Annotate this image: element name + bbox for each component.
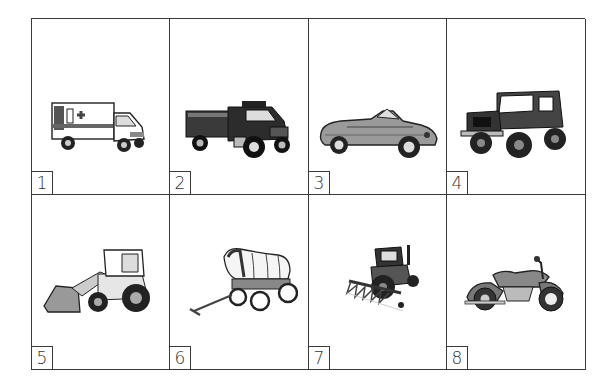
- convertible-car-icon: [317, 105, 441, 163]
- cell-number-label: 6: [169, 346, 191, 370]
- jeep-icon: [459, 83, 571, 159]
- tractor-icon: [343, 241, 427, 315]
- covered-wagon-icon: [188, 245, 298, 317]
- cell-number-label: 3: [308, 171, 330, 195]
- cell-number-label: 8: [446, 346, 468, 370]
- cell-number-label: 4: [446, 171, 468, 195]
- grid-cell-4: 4: [447, 19, 586, 195]
- cell-number-label: 7: [308, 346, 330, 370]
- vehicle-grid: 1 2: [31, 18, 585, 369]
- grid-cell-3: 3: [309, 19, 447, 195]
- motorcycle-icon: [463, 253, 571, 315]
- grid-cell-5: 5: [32, 195, 170, 370]
- cell-number-label: 2: [169, 171, 191, 195]
- ambulance-icon: [50, 99, 148, 155]
- grid-cell-7: 7: [309, 195, 447, 370]
- grid-cell-2: 2: [170, 19, 309, 195]
- front-loader-icon: [42, 246, 160, 318]
- fire-truck-icon: [184, 99, 296, 161]
- grid-cell-6: 6: [170, 195, 309, 370]
- cell-number-label: 1: [31, 171, 53, 195]
- cell-number-label: 5: [31, 346, 53, 370]
- grid-cell-1: 1: [32, 19, 170, 195]
- grid-cell-8: 8: [447, 195, 586, 370]
